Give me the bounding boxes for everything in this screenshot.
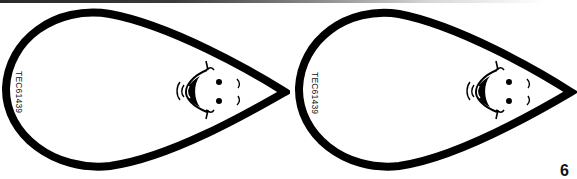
teardrop-outline-icon [287,0,577,178]
product-code-label: TEC61439 [310,72,320,114]
teardrop-cutout-1: TEC61439 [0,0,290,178]
corner-page-number: 6 [560,163,569,179]
product-code-label: TEC61439 [14,71,24,113]
teardrop-cutout-2: TEC61439 [287,0,577,178]
teardrop-outline-icon [0,0,290,178]
smiling-face-icon [467,61,529,119]
smiling-face-icon [177,61,239,119]
